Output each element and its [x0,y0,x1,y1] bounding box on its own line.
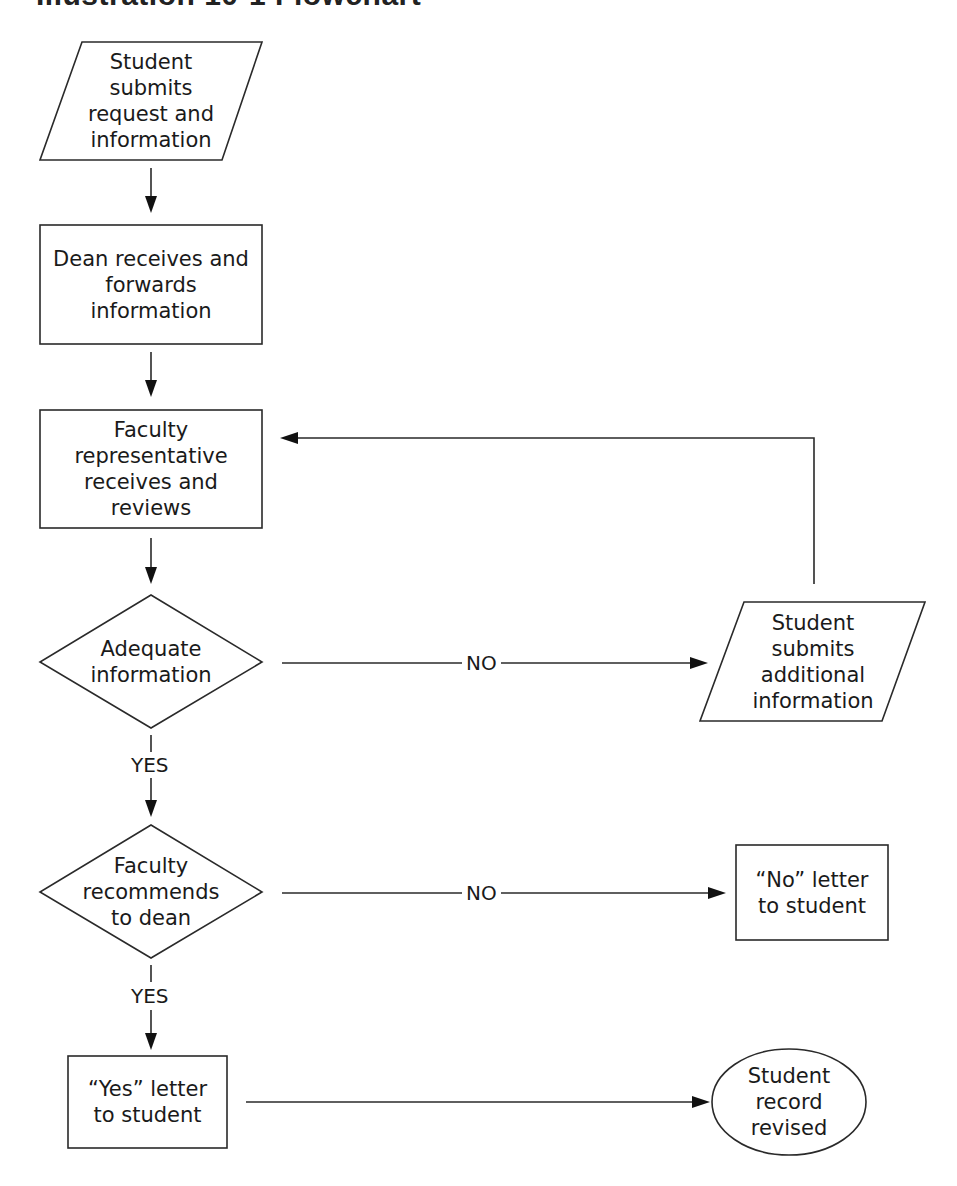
arrow-dean-to-faculty [145,352,157,397]
adequate-yes-label: YES [127,754,173,776]
flowchart-canvas [0,0,957,1186]
arrow-faculty-to-adequate [145,538,157,584]
arrow-loop-back [280,432,814,584]
recommends-no-label: NO [462,882,501,904]
student-additional-node: Student submits additional information [722,602,904,721]
faculty-recommends-node: Faculty recommends to dean [40,847,262,937]
flowchart: Illustration 10-1 Flowchart [0,0,957,1186]
adequate-no-label: NO [462,652,501,674]
recommends-yes-label: YES [127,985,173,1007]
dean-receives-node: Dean receives and forwards information [40,225,262,344]
record-revised-node: Student record revised [712,1049,866,1155]
faculty-rep-node: Faculty representative receives and revi… [40,410,262,528]
student-submits-node: Student submits request and information [60,42,242,160]
arrow-yes-to-record [246,1096,710,1108]
adequate-info-node: Adequate information [40,622,262,702]
arrow-submit-to-dean [145,168,157,213]
arrow-recommends-no [282,887,726,899]
no-letter-node: “No” letter to student [736,845,888,940]
yes-letter-node: “Yes” letter to student [68,1056,227,1148]
